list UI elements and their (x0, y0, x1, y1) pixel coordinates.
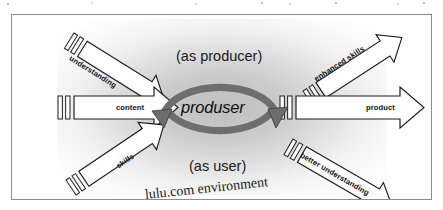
arrow-product (280, 87, 424, 128)
arrow-better-understanding (280, 133, 400, 200)
role-label-user: (as user) (189, 158, 246, 174)
arrow-label-product: product (366, 103, 395, 112)
center-label-produser: produser (181, 98, 245, 117)
role-label-producer: (as producer) (176, 48, 262, 64)
scan-noise-artifact (0, 0, 443, 11)
figure-frame: .blockarrow { fill:#ffffff; stroke:#1a1a… (11, 14, 432, 200)
figure-page: .blockarrow { fill:#ffffff; stroke:#1a1a… (0, 0, 443, 210)
arrow-label-content: content (116, 103, 144, 112)
